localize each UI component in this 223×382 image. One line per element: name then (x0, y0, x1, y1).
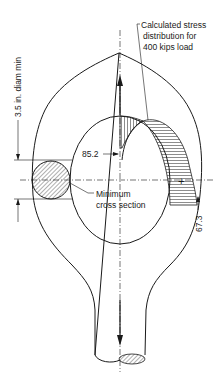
inner-stress-value: 85.2 (82, 149, 99, 159)
sign-plus: + (178, 175, 184, 187)
stress-region-top (120, 116, 143, 148)
stress-region-right (143, 120, 197, 205)
load-arrow-up-icon (117, 75, 123, 86)
min-section-label-2: cross section (96, 200, 146, 210)
stress-note-line-2: distribution for (143, 31, 197, 41)
load-arrow-down-icon (117, 335, 123, 346)
link-diagram: + 3.5 in. diam min Minimum cross section… (0, 0, 223, 382)
inner-stress-arrow-icon (113, 152, 119, 156)
stress-note-line-1: Calculated stress (141, 20, 206, 30)
shank-section (119, 354, 145, 364)
min-section-leader (70, 183, 94, 193)
min-section-label-1: Minimum (96, 189, 130, 199)
min-cross-section (32, 161, 70, 199)
outer-stress-value: 67.3 (194, 215, 204, 232)
stress-note-line-3: 400 kips load (143, 42, 193, 52)
shank-bottom-outline (95, 355, 120, 362)
diameter-dimension-label: 3.5 in. diam min (13, 57, 23, 117)
dim-arrow-bottom-icon (16, 199, 20, 205)
dim-arrow-top-icon (16, 154, 20, 160)
